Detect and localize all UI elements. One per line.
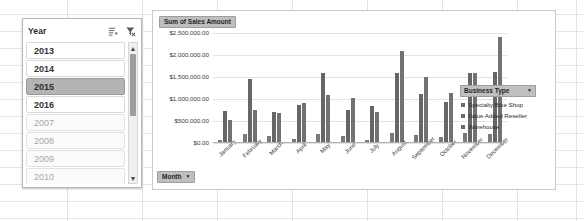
slicer-header-icons bbox=[107, 23, 136, 34]
legend-title: Business Type bbox=[464, 88, 509, 95]
legend-item-label: Value Added Reseller bbox=[468, 113, 527, 119]
bar-group: August bbox=[385, 33, 410, 143]
bar-group: July bbox=[360, 33, 385, 143]
legend-item: Warehouse bbox=[460, 124, 536, 130]
bar[interactable] bbox=[444, 102, 448, 143]
scroll-down-icon[interactable]: ▼ bbox=[129, 173, 137, 183]
bar[interactable] bbox=[351, 98, 355, 143]
multi-select-icon[interactable] bbox=[107, 23, 118, 34]
axis-field-label: Month bbox=[162, 174, 182, 181]
bar-group: October bbox=[434, 33, 459, 143]
slicer-item[interactable]: 2008 bbox=[26, 132, 125, 149]
slicer-item[interactable]: 2009 bbox=[26, 150, 125, 167]
bar[interactable] bbox=[449, 93, 453, 143]
bar-group: April bbox=[287, 33, 312, 143]
y-axis-tick-label: $2,500,000.00 bbox=[169, 30, 209, 36]
clear-filter-icon[interactable] bbox=[125, 23, 136, 34]
slicer-header: Year bbox=[28, 23, 136, 39]
legend-swatch bbox=[461, 114, 465, 118]
bar-group: January bbox=[213, 33, 238, 143]
y-axis-tick-label: $2,000,000.00 bbox=[169, 52, 209, 58]
bar[interactable] bbox=[248, 79, 252, 143]
bar-group: March bbox=[262, 33, 287, 143]
year-slicer[interactable]: Year bbox=[22, 18, 142, 188]
slicer-item[interactable]: 2014 bbox=[26, 60, 125, 77]
legend-item-label: Specialty Bike Shop bbox=[468, 102, 523, 108]
slicer-item[interactable]: 2013 bbox=[26, 42, 125, 59]
bar[interactable] bbox=[395, 73, 399, 143]
legend[interactable]: Business Type ▼ Specialty Bike ShopValue… bbox=[460, 85, 536, 130]
value-field-button[interactable]: Sum of Sales Amount bbox=[159, 16, 236, 28]
legend-swatch bbox=[461, 103, 465, 107]
bar[interactable] bbox=[223, 111, 227, 143]
value-field-label: Sum of Sales Amount bbox=[164, 19, 231, 26]
slicer-item[interactable]: 2007 bbox=[26, 114, 125, 131]
axis-field-button[interactable]: Month ▼ bbox=[157, 171, 195, 183]
y-axis-tick-label: $500,000.00 bbox=[175, 118, 209, 124]
chevron-down-icon[interactable]: ▼ bbox=[186, 174, 191, 179]
bar-group: May bbox=[311, 33, 336, 143]
y-axis-tick-label: $1,500,000.00 bbox=[169, 74, 209, 80]
slicer-scrollbar[interactable]: ▲ ▼ bbox=[128, 42, 138, 184]
bar-group: February bbox=[238, 33, 263, 143]
bar[interactable] bbox=[346, 110, 350, 143]
bar[interactable] bbox=[272, 112, 276, 143]
slicer-item-selected[interactable]: 2015 bbox=[26, 78, 125, 95]
bar[interactable] bbox=[277, 113, 281, 143]
legend-item-label: Warehouse bbox=[468, 124, 499, 130]
scroll-up-icon[interactable]: ▲ bbox=[129, 43, 137, 53]
bar-group: September bbox=[409, 33, 434, 143]
slicer-title: Year bbox=[28, 26, 46, 36]
y-axis-tick-label: $0.00 bbox=[194, 140, 209, 146]
category-axis-line bbox=[213, 142, 507, 143]
legend-item: Value Added Reseller bbox=[460, 113, 536, 119]
pivot-chart[interactable]: Sum of Sales Amount Month ▼ $0.00$500,00… bbox=[152, 10, 556, 190]
legend-field-button[interactable]: Business Type ▼ bbox=[460, 85, 536, 97]
bar[interactable] bbox=[400, 51, 404, 143]
bar[interactable] bbox=[370, 106, 374, 143]
slicer-item-list[interactable]: 2013 2014 2015 2016 2007 2008 2009 2010 … bbox=[26, 42, 138, 184]
legend-items: Specialty Bike ShopValue Added ResellerW… bbox=[460, 102, 536, 131]
bar[interactable] bbox=[326, 95, 330, 143]
chevron-down-icon[interactable]: ▼ bbox=[527, 88, 532, 93]
y-axis-tick-label: $1,000,000.00 bbox=[169, 96, 209, 102]
bar[interactable] bbox=[419, 94, 423, 143]
legend-item: Specialty Bike Shop bbox=[460, 102, 536, 108]
bar[interactable] bbox=[375, 112, 379, 143]
bar[interactable] bbox=[321, 73, 325, 143]
scrollbar-thumb[interactable] bbox=[130, 54, 136, 116]
slicer-item[interactable]: 2010 bbox=[26, 168, 125, 184]
legend-swatch bbox=[461, 125, 465, 129]
bar[interactable] bbox=[302, 103, 306, 143]
slicer-item[interactable]: 2016 bbox=[26, 96, 125, 113]
bar[interactable] bbox=[297, 105, 301, 143]
bar[interactable] bbox=[424, 77, 428, 143]
bar-group: June bbox=[336, 33, 361, 143]
